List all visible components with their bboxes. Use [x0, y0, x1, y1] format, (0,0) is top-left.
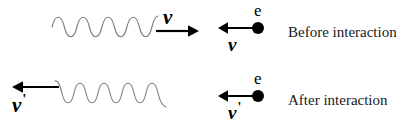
before-interaction-row: ν e v Before interaction	[0, 0, 420, 68]
incoming-photon-arrow-right-icon	[155, 24, 200, 38]
before-electron-velocity-arrow-left-icon	[218, 21, 258, 35]
scattered-photon-symbol: ν	[12, 93, 21, 117]
after-velocity-prime: '	[237, 100, 241, 115]
before-interaction-caption: Before interaction	[288, 25, 397, 40]
scattered-photon-wave	[54, 76, 172, 110]
before-electron-velocity-label: v	[228, 33, 237, 54]
before-electron-label: e	[254, 2, 262, 19]
after-interaction-caption: After interaction	[288, 93, 388, 108]
scattered-photon-prime: '	[22, 91, 26, 107]
after-velocity-symbol: v	[228, 102, 236, 123]
scattered-photon-label: ν'	[12, 92, 27, 116]
after-electron-label: e	[254, 70, 262, 87]
after-electron-velocity-label: v'	[228, 101, 241, 122]
incoming-photon-wave	[50, 12, 160, 42]
before-velocity-symbol: v	[228, 34, 236, 55]
after-interaction-row: ν' e v' After interaction	[0, 68, 420, 137]
compton-scattering-diagram: ν e v Before interaction	[0, 0, 420, 137]
